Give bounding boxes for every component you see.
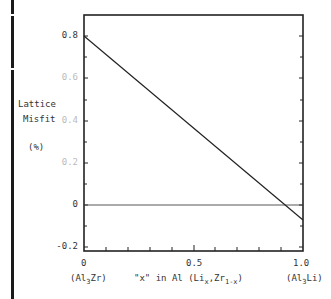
y-axis-title-line1: Lattice — [18, 99, 56, 109]
x-tick-label: 0 — [81, 258, 86, 268]
plot-frame — [84, 15, 303, 251]
x-tick-label: 0.5 — [186, 258, 202, 268]
y-tick-label: 0.4 — [38, 115, 78, 125]
plot-area — [0, 0, 331, 299]
misfit-data-line — [84, 36, 303, 220]
x-right-compound-label: (Al3Li) — [286, 273, 323, 283]
x-left-compound-label: (Al3Zr) — [70, 273, 107, 283]
y-tick-label: -0.2 — [38, 241, 78, 251]
y-tick-label: 0.8 — [38, 30, 78, 40]
y-tick-label: 0.6 — [38, 72, 78, 82]
y-tick-label: 0.2 — [38, 157, 78, 167]
y-axis-title-unit: (%) — [28, 142, 44, 152]
x-tick-label: 1.0 — [293, 258, 309, 268]
y-tick-label: 0 — [38, 199, 78, 209]
x-ticks — [106, 245, 281, 251]
x-axis-title: "x" in Al (Lix,Zr1-x) — [134, 273, 243, 283]
